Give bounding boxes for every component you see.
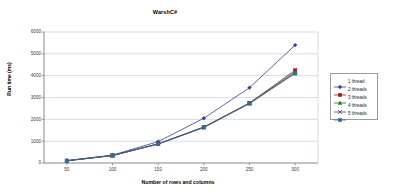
x-tick-label: 250 [237,167,263,172]
legend-item-2[interactable]: 2 threads [333,85,375,93]
legend-item-label: 5 threads [348,111,367,116]
y-tick-label: 3000 [17,95,41,100]
x-tick-label: 300 [282,167,308,172]
square-marker-icon [333,110,347,118]
legend-item-1[interactable]: 1 thread [333,77,375,85]
x-tick-label: 150 [145,167,171,172]
legend-item-label: 2 threads [348,87,367,92]
cross-marker-icon [333,102,347,110]
x-tick-label: 200 [191,167,217,172]
x-axis-title: Number of rows and columns [42,179,314,185]
legend-item-label: 3 threads [348,95,367,100]
legend-item-4[interactable]: 4 threads [333,102,375,110]
x-tick-label: 100 [100,167,126,172]
triangle-marker-icon [333,93,347,101]
diamond-marker-icon [333,77,347,85]
y-tick-label: 1000 [17,139,41,144]
legend-item-3[interactable]: 3 threads [333,93,375,101]
chart-container: WarshC# Run time (ms) Number of rows and… [0,0,398,193]
y-tick-label: 5000 [17,51,41,56]
legend-item-5[interactable]: 5 threads [333,110,375,118]
y-tick-label: 6000 [17,29,41,34]
legend-item-label: 4 threads [348,103,367,108]
legend-item-label: 1 thread [348,79,365,84]
chart-legend: 1 thread2 threads3 threads4 threads5 thr… [330,73,378,120]
y-tick-label: 0 [17,160,41,165]
y-tick-label: 4000 [17,73,41,78]
square-marker-icon [333,85,347,93]
y-tick-label: 2000 [17,117,41,122]
y-axis-title: Run time (ms) [6,53,12,105]
x-tick-label: 50 [54,167,80,172]
